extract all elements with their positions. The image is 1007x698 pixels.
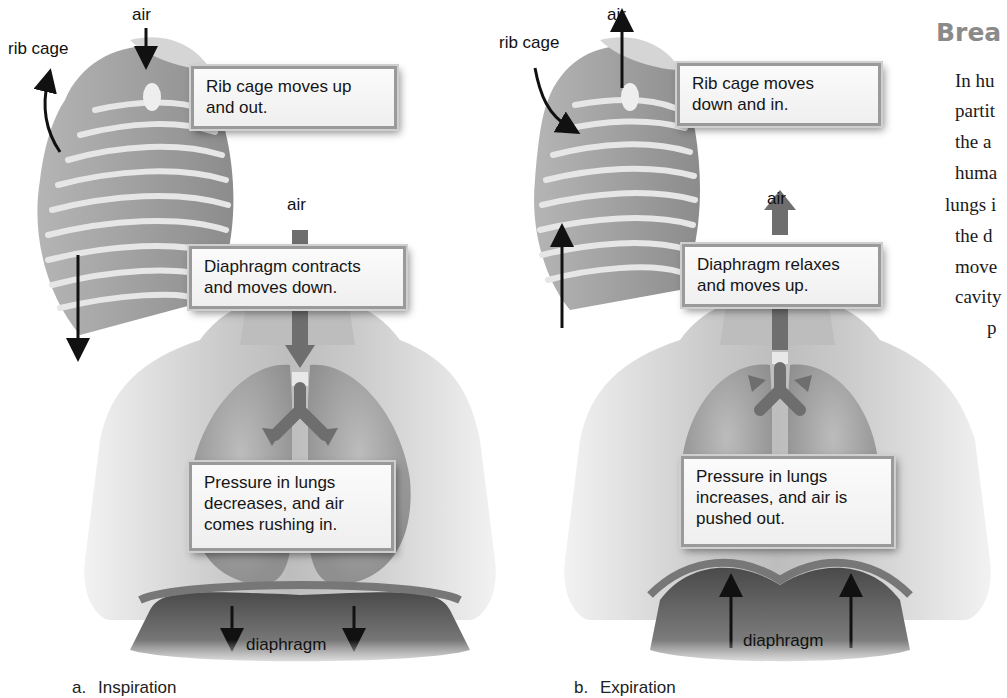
panel-b-diaphragm-callout: Diaphragm relaxes and moves up. [682,244,881,307]
panel-a-rib-cage-callout: Rib cage moves up and out. [191,66,397,129]
body-text-line-9: p [987,313,997,343]
body-text-line-6: the d [955,221,992,251]
panel-b-rib-cage-label: rib cage [499,34,559,51]
body-text-line-8: cavity [955,282,1001,312]
panel-a-air-mid-label: air [287,196,306,213]
section-heading: Brea [936,18,1001,47]
panel-b-air-mid-label: air [767,190,786,207]
body-text-line-5: lungs i [945,190,996,220]
panel-b-diaphragm-label: diaphragm [743,632,823,649]
body-text-line-7: move [955,252,997,282]
panel-b-pressure-callout: Pressure in lungs increases, and air is … [681,456,894,547]
panel-b-air-top-label: air [607,6,626,23]
panel-a-diaphragm-callout: Diaphragm contracts and moves down. [189,246,406,309]
panel-a-air-top-label: air [132,6,151,23]
body-text-line-1: In hu [955,66,995,96]
panel-a-caption: a.Inspiration [72,678,176,698]
body-text-line-2: partit [955,96,995,126]
body-text-line-3: the a [955,127,991,157]
panel-a-caption-text: Inspiration [98,678,176,697]
panel-b-caption-letter: b. [574,678,600,698]
panel-b-caption-text: Expiration [600,678,676,697]
panel-b-caption: b.Expiration [574,678,676,698]
panel-a-caption-letter: a. [72,678,98,698]
panel-a-rib-cage-label: rib cage [8,40,68,57]
body-text-line-4: huma [955,158,997,188]
panel-b-rib-cage-callout: Rib cage moves down and in. [677,63,881,126]
panel-a-pressure-callout: Pressure in lungs decreases, and air com… [189,462,394,551]
panel-a-diaphragm-label: diaphragm [246,636,326,653]
